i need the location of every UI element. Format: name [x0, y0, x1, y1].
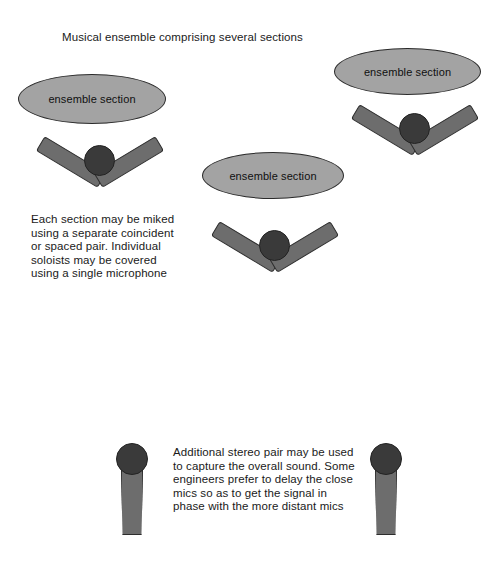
mic-body [375, 470, 397, 535]
diagram-canvas: Musical ensemble comprising several sect… [0, 0, 491, 562]
ensemble-section-ellipse-center: ensemble section [202, 152, 344, 199]
mic-head [370, 443, 402, 475]
mic-capsule-head [259, 230, 290, 261]
coincident-mic-pair-left-icon [30, 140, 170, 220]
mic-body [121, 470, 143, 535]
coincident-mic-pair-right-icon [345, 108, 485, 188]
ensemble-section-label: ensemble section [334, 48, 481, 95]
stereo-microphone-left-icon [112, 443, 152, 535]
ensemble-section-ellipse-left: ensemble section [18, 74, 166, 124]
ensemble-section-label: ensemble section [18, 74, 166, 124]
ensemble-section-label: ensemble section [202, 152, 344, 199]
stereo-note-text: Additional stereo pair may be used to ca… [173, 446, 355, 514]
mic-head [116, 443, 148, 475]
coincident-mic-pair-center-icon [205, 225, 345, 305]
diagram-title: Musical ensemble comprising several sect… [62, 30, 303, 44]
ensemble-section-ellipse-right: ensemble section [334, 48, 481, 95]
mic-capsule-head [399, 113, 430, 144]
sections-note-text: Each section may be miked using a separa… [31, 213, 181, 281]
mic-capsule-head [84, 145, 115, 176]
stereo-microphone-right-icon [366, 443, 406, 535]
